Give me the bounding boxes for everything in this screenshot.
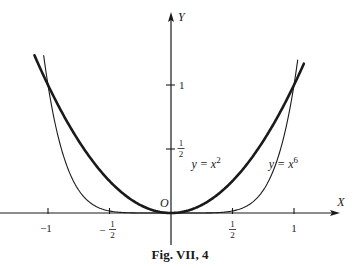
x-tick-label-numerator: 1 [110,219,115,229]
x-tick-label: −1 [40,222,52,234]
x-tick-label: 1 [291,222,297,234]
curve-label-x-sixth: y = x6 [268,155,299,171]
figure-caption: Fig. VII, 4 [152,247,209,262]
y-tick-label-numerator: 1 [179,138,184,148]
y-tick-label-denominator: 2 [179,149,184,159]
curve-label-exponent: 2 [216,155,221,165]
x-tick-label-denominator: 2 [110,230,115,240]
labels: XYOy = x2y = x6 [160,10,345,210]
y-tick-label: 1 [179,79,185,91]
x-axis-label: X [336,195,345,209]
figure-plot: −1−12121121 XYOy = x2y = x6 Fig. VII, 4 [0,0,358,268]
x-tick-label-denominator: 2 [230,230,235,240]
origin-label: O [160,196,169,210]
curves [34,55,303,213]
x-tick-label: − [99,224,105,236]
ticks: −1−12121121 [40,79,297,240]
curve-label-x-squared: y = x2 [190,155,220,171]
x-tick-label-numerator: 1 [230,219,235,229]
y-axis-label: Y [178,10,186,24]
curve-label-exponent: 6 [294,155,299,165]
axes [0,12,340,245]
